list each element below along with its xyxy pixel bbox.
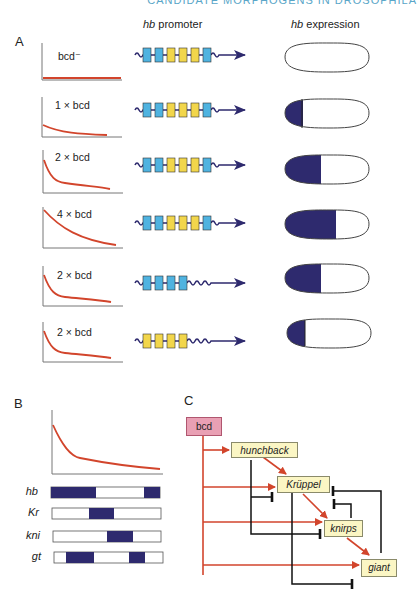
panel-b-label: B: [14, 396, 23, 411]
panel-b-bcd-gradient-chart: [52, 410, 163, 474]
gene-bar-kni: [53, 531, 161, 542]
gene-label-kni: kni: [10, 529, 40, 541]
embryo-expression-row-3: [285, 154, 369, 185]
promoter-construct-row-1: [135, 48, 245, 62]
figure-graphics: [0, 0, 417, 602]
promoter-construct-row-4: [135, 216, 245, 230]
node-knirps: knirps: [324, 520, 363, 537]
embryo-expression-row-1: [285, 43, 369, 72]
node-giant: giant: [361, 559, 397, 577]
bcd-gradient-chart-row-4: [43, 207, 123, 248]
bcd-gradient-chart-row-3: [43, 150, 123, 193]
promoter-construct-row-5: [135, 276, 245, 290]
gene-label-hb: hb: [8, 485, 38, 497]
embryo-expression-row-6: [287, 318, 371, 349]
bcd-gradient-chart-row-1: [42, 43, 122, 80]
cascade-activation-arrows: [263, 457, 369, 555]
node-hunchback: hunchback: [231, 442, 298, 458]
promoter-construct-row-3: [135, 158, 245, 172]
embryo-expression-row-2: [285, 98, 369, 129]
gene-bar-gt: [54, 552, 163, 563]
promoter-construct-row-6: [135, 334, 245, 348]
embryo-expression-row-4: [285, 209, 369, 240]
gene-bar-hb: [51, 487, 160, 498]
panel-c-label: C: [184, 393, 193, 408]
bcd-gradient-chart-row-2: [42, 97, 122, 137]
node-kruppel: Krüppel: [277, 476, 330, 493]
gene-label-kr: Kr: [9, 506, 39, 518]
node-bcd: bcd: [186, 417, 222, 436]
gene-label-gt: gt: [11, 550, 41, 562]
bcd-gradient-chart-row-6: [43, 322, 123, 362]
bcd-gradient-chart-row-5: [43, 266, 123, 306]
embryo-expression-row-5: [285, 263, 369, 294]
gene-bar-kr: [52, 508, 161, 519]
promoter-construct-row-2: [135, 103, 245, 117]
